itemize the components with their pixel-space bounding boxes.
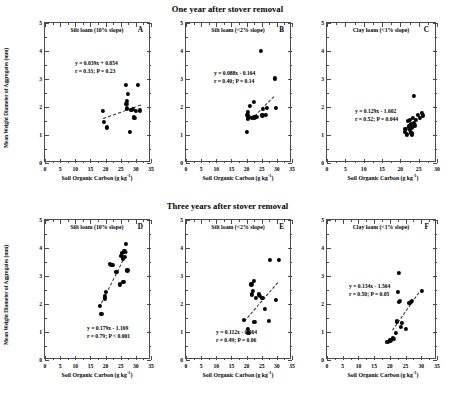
axis-tick [186,23,190,24]
axis-tick [231,220,232,224]
axis-tick [45,332,49,333]
regression-equation: y = 0.134x - 1.564 [349,282,390,290]
panel-subtitle-a: Silt loam (10% slope) [45,27,149,33]
axis-tick [247,159,248,163]
axis-tick [247,356,248,360]
panel-subtitle-f: Clay loam (<1% slope) [327,224,435,230]
figure-scatter-panels: One year after stover removal Mean Weigh… [0,0,455,394]
axis-tick [149,234,151,235]
axis-tick [382,358,383,360]
axis-tick [406,356,407,360]
data-point [410,299,414,303]
axis-tick [45,107,49,108]
panel-a: Silt loam (10% slope)A051015202530350123… [16,18,158,196]
axis-tick [149,121,151,122]
data-point [420,289,424,293]
axis-tick [429,220,430,222]
axis-tick [45,318,47,319]
y-tick-label: 2 [310,104,324,110]
y-tick-label: 1 [169,132,183,138]
axis-tick [435,262,437,263]
axis-tick [343,356,344,360]
panel-letter-f: F [425,223,429,231]
data-point [398,325,402,329]
axis-tick [335,220,336,222]
axis-tick [239,358,240,360]
regression-annotation-d: y = 0.179x - 1.169r = 0.79; P < 0.001 [87,324,130,340]
axis-tick [433,220,437,221]
axis-tick [410,23,411,25]
axis-tick [290,121,292,122]
axis-tick [90,356,91,360]
axis-tick [90,220,91,224]
data-point [123,242,127,246]
axis-tick [292,159,293,163]
axis-tick [186,234,188,235]
y-tick-label: 1 [28,132,42,138]
y-axis-label-text: Mean Weight Diameter of Aggregates (mm) [3,245,9,345]
axis-tick [327,360,331,361]
x-tick-label: 25 [114,363,128,369]
plot-area-b: Silt loam (<2% slope)B051015202530350123… [185,22,291,162]
axis-tick [45,135,49,136]
axis-tick [435,318,437,319]
data-point [125,268,129,272]
axis-tick [128,358,129,360]
axis-tick [327,262,329,263]
axis-tick [327,149,329,150]
data-point [251,100,255,104]
x-tick-label: 15 [375,166,389,172]
data-point [421,113,425,117]
axis-tick [216,23,217,27]
axis-tick [239,23,240,25]
axis-tick [327,332,331,333]
axis-tick [113,358,114,360]
axis-tick [433,248,437,249]
axis-tick [147,79,151,80]
data-point [103,290,107,294]
axis-tick [113,220,114,222]
axis-tick [277,23,278,27]
y-tick-label: 4 [169,48,183,54]
x-axis-label-close: ) [130,175,132,181]
x-tick-label: 20 [240,166,254,172]
regression-line-e [244,282,278,321]
axis-tick [345,159,346,163]
axis-tick [147,135,151,136]
regression-equation: y = 0.129x - 1.602 [355,107,398,115]
axis-tick [68,161,69,163]
axis-tick [113,161,114,163]
axis-tick [136,159,137,163]
panel-letter-b: B [279,26,284,34]
axis-tick [284,23,285,25]
axis-tick [149,290,151,291]
axis-tick [327,51,331,52]
axis-tick [149,37,151,38]
axis-tick [186,332,190,333]
axis-tick [45,121,47,122]
axis-tick [75,356,76,360]
axis-tick [121,23,122,27]
axis-tick [186,121,188,122]
x-tick-label: 30 [129,363,143,369]
axis-tick [433,135,437,136]
axis-tick [45,220,49,221]
y-axis-label-text: Mean Weight Diameter of Aggregates (mm) [3,48,9,148]
axis-tick [421,220,422,224]
plot-area-c: Clay loam (<1% slope)C051015202530012345… [326,22,436,162]
axis-tick [147,332,151,333]
axis-tick [231,23,232,27]
axis-tick [209,23,210,25]
axis-tick [437,220,438,224]
axis-tick [186,65,188,66]
axis-tick [83,220,84,222]
axis-tick [364,23,365,27]
axis-tick [216,159,217,163]
axis-tick [433,79,437,80]
axis-tick [209,161,210,163]
axis-tick [288,135,292,136]
axis-tick [288,79,292,80]
axis-tick [106,159,107,163]
axis-tick [262,356,263,360]
axis-tick [288,23,292,24]
